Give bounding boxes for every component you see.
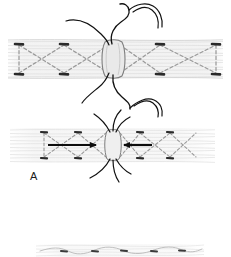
- repair-site-top: [102, 40, 125, 79]
- suture-thread-top-center: [111, 4, 129, 44]
- illustration-svg: A: [0, 0, 231, 257]
- figure-canvas: A: [0, 0, 231, 257]
- panel-label-a: A: [30, 170, 38, 182]
- needle-top-right: [129, 4, 162, 28]
- panel-top: [8, 4, 223, 117]
- repair-site-a: [105, 130, 122, 161]
- suture-thread-bottom-center: [113, 75, 130, 109]
- suture-tails-a-bottom: [90, 159, 131, 182]
- needle-bottom-right: [130, 99, 162, 117]
- panel-bottom: [34, 244, 206, 257]
- panel-a: A: [10, 110, 215, 182]
